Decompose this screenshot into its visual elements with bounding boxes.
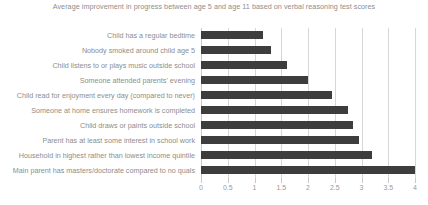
bar-rows — [201, 28, 415, 178]
bar[interactable] — [201, 91, 332, 99]
category-label: Child draws or paints outside school — [80, 118, 195, 133]
x-axis-tick-labels: 00.511.522.533.54 — [201, 184, 415, 196]
chart-title: Average improvement in progress between … — [0, 2, 428, 11]
tick-mark — [255, 178, 256, 183]
x-tick-label: 1.5 — [276, 184, 286, 191]
tick-mark — [388, 178, 389, 183]
category-label: Household in highest rather than lowest … — [19, 148, 195, 163]
category-label: Parent has at least some interest in sch… — [42, 133, 195, 148]
gridline — [415, 28, 416, 178]
x-tick-label: 2 — [306, 184, 310, 191]
bar-row[interactable] — [201, 118, 415, 133]
tick-mark — [281, 178, 282, 183]
plot-area — [201, 28, 415, 178]
x-tick-label: 1 — [253, 184, 257, 191]
category-label: Someone at home ensures homework is comp… — [31, 103, 195, 118]
bar[interactable] — [201, 46, 271, 54]
bar-row[interactable] — [201, 58, 415, 73]
category-label: Someone attended parents' evening — [80, 73, 195, 88]
x-tick-label: 3 — [360, 184, 364, 191]
bar[interactable] — [201, 76, 308, 84]
x-tick-label: 0.5 — [223, 184, 233, 191]
bar-row[interactable] — [201, 43, 415, 58]
tick-mark — [308, 178, 309, 183]
tick-mark — [335, 178, 336, 183]
bar-chart: Average improvement in progress between … — [0, 0, 428, 205]
tick-mark — [228, 178, 229, 183]
tick-mark — [201, 178, 202, 183]
bar-row[interactable] — [201, 148, 415, 163]
bar[interactable] — [201, 31, 263, 39]
bar[interactable] — [201, 121, 353, 129]
category-label: Child listens to or plays music outside … — [52, 58, 195, 73]
x-tick-label: 4 — [413, 184, 417, 191]
x-axis-tick-marks — [201, 178, 415, 183]
x-tick-label: 2.5 — [330, 184, 340, 191]
bar[interactable] — [201, 166, 415, 174]
category-axis-labels: Child has a regular bedtimeNobody smoked… — [0, 28, 198, 178]
category-label: Main parent has masters/doctorate compar… — [13, 163, 195, 178]
x-tick-label: 0 — [199, 184, 203, 191]
bar-row[interactable] — [201, 163, 415, 178]
tick-mark — [362, 178, 363, 183]
bar[interactable] — [201, 106, 348, 114]
bar[interactable] — [201, 151, 372, 159]
bar-row[interactable] — [201, 88, 415, 103]
bar-row[interactable] — [201, 73, 415, 88]
category-label: Child read for enjoyment every day (comp… — [17, 88, 195, 103]
category-label: Child has a regular bedtime — [107, 28, 195, 43]
bar-row[interactable] — [201, 133, 415, 148]
x-tick-label: 3.5 — [383, 184, 393, 191]
tick-mark — [415, 178, 416, 183]
category-label: Nobody smoked around child age 5 — [82, 43, 195, 58]
bar[interactable] — [201, 136, 359, 144]
bar[interactable] — [201, 61, 287, 69]
bar-row[interactable] — [201, 28, 415, 43]
bar-row[interactable] — [201, 103, 415, 118]
